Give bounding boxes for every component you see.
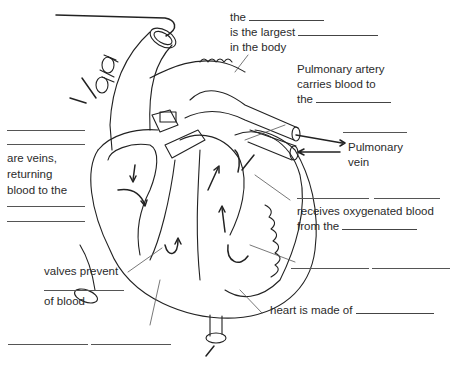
label-pulmonary-artery-line3: the bbox=[297, 92, 391, 107]
label-left-atrium-line2: from the bbox=[297, 219, 417, 234]
label-left-atrium-line1: receives oxygenated blood bbox=[297, 204, 434, 219]
label-aorta-line3: in the body bbox=[230, 40, 286, 55]
answer-blank[interactable] bbox=[7, 144, 85, 145]
answer-blank[interactable] bbox=[374, 198, 440, 199]
answer-blank[interactable] bbox=[372, 268, 450, 269]
answer-blank[interactable] bbox=[356, 303, 434, 314]
answer-blank[interactable] bbox=[298, 25, 378, 36]
answer-blank[interactable] bbox=[7, 130, 85, 131]
heart-diagram-worksheet: the is the largest in the body Pulmonary… bbox=[0, 0, 455, 365]
label-veins-line3: blood to the bbox=[7, 183, 67, 198]
answer-blank[interactable] bbox=[7, 206, 85, 207]
label-veins-line1: are veins, bbox=[7, 151, 57, 166]
answer-blank[interactable] bbox=[343, 132, 407, 133]
answer-blank[interactable] bbox=[297, 198, 369, 199]
label-heart-muscle: heart is made of bbox=[270, 303, 434, 318]
answer-blank[interactable] bbox=[249, 10, 324, 21]
label-valves-line1: valves prevent bbox=[44, 264, 118, 279]
label-pulmonary-artery-line1: Pulmonary artery bbox=[297, 62, 385, 77]
answer-blank[interactable] bbox=[291, 268, 369, 269]
answer-blank[interactable] bbox=[44, 290, 124, 291]
answer-blank[interactable] bbox=[7, 221, 85, 222]
answer-blank[interactable] bbox=[8, 344, 88, 345]
answer-blank[interactable] bbox=[91, 344, 171, 345]
label-pulmonary-vein-line1: Pulmonary bbox=[348, 140, 403, 155]
label-veins-line2: returning bbox=[7, 167, 52, 182]
label-aorta-line2: is the largest bbox=[230, 25, 378, 40]
label-aorta-line1: the bbox=[230, 10, 324, 25]
answer-blank[interactable] bbox=[316, 92, 391, 103]
label-valves-line2: of blood bbox=[44, 294, 85, 309]
label-pulmonary-artery-line2: carries blood to bbox=[297, 77, 376, 92]
answer-blank[interactable] bbox=[342, 219, 417, 230]
label-pulmonary-vein-line2: vein bbox=[348, 155, 369, 170]
